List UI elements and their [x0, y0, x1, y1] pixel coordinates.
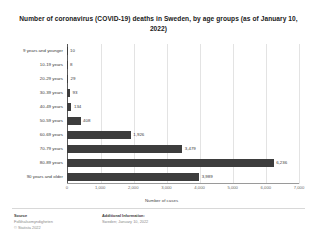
x-tick-label: 4,000	[194, 185, 204, 190]
bar-value-label: 134	[74, 105, 81, 109]
bar[interactable]	[67, 89, 70, 97]
bar[interactable]	[67, 117, 81, 125]
bar-track: 29	[67, 74, 299, 85]
bar-value-label: 408	[83, 119, 90, 123]
bar-value-label: 6,236	[276, 161, 287, 165]
category-label: 9 years and younger	[12, 49, 67, 53]
footer-divider	[12, 208, 305, 209]
category-label: 90 years and older	[12, 175, 67, 179]
bar[interactable]	[67, 173, 199, 181]
bar-row: 20-29 years29	[12, 74, 299, 85]
bar-value-label: 93	[73, 91, 78, 95]
bar[interactable]	[67, 61, 68, 69]
bar-track: 3,989	[67, 172, 299, 183]
chart-card: Number of coronavirus (COVID-19) deaths …	[0, 0, 317, 245]
chart-footer: Source Folkhalsomyndigheten © Statista 2…	[14, 213, 305, 231]
category-label: 40-49 years	[12, 105, 67, 109]
bar-value-label: 10	[70, 49, 75, 53]
category-label: 60-69 years	[12, 133, 67, 137]
bar-value-label: 3,479	[185, 147, 196, 151]
bar[interactable]	[67, 159, 274, 167]
chart-title: Number of coronavirus (COVID-19) deaths …	[14, 14, 303, 34]
bar-row: 90 years and older3,989	[12, 172, 299, 183]
bar-value-label: 8	[70, 63, 72, 67]
bar[interactable]	[67, 145, 182, 153]
x-tick-label: 3,000	[161, 185, 171, 190]
bar-track: 134	[67, 102, 299, 113]
bar-row: 50-59 years408	[12, 116, 299, 127]
bar-row: 30-39 years93	[12, 88, 299, 99]
x-tick-label: 1,000	[95, 185, 105, 190]
category-label: 80-89 years	[12, 161, 67, 165]
bar[interactable]	[67, 47, 68, 55]
bar-track: 10	[67, 46, 299, 57]
bar-row: 70-79 years3,479	[12, 144, 299, 155]
bar-row: 40-49 years134	[12, 102, 299, 113]
category-label: 10-19 years	[12, 63, 67, 67]
additional-info-block: Additional Information: Sweden; January …	[102, 213, 148, 231]
category-label: 30-39 years	[12, 91, 67, 95]
bar-row: 80-89 years6,236	[12, 158, 299, 169]
category-label: 70-79 years	[12, 147, 67, 151]
x-tick-label: 6,000	[261, 185, 271, 190]
bar-track: 8	[67, 60, 299, 71]
x-tick-label: 5,000	[227, 185, 237, 190]
bar-value-label: 1,926	[133, 133, 144, 137]
additional-info-line: Sweden; January 10, 2022	[102, 219, 148, 225]
bar-value-label: 29	[70, 77, 75, 81]
gridline	[299, 44, 300, 184]
x-tick-label: 7,000	[294, 185, 304, 190]
bar-row: 9 years and younger10	[12, 46, 299, 57]
bar[interactable]	[67, 103, 71, 111]
bar-track: 1,926	[67, 130, 299, 141]
bar-track: 93	[67, 88, 299, 99]
bar[interactable]	[67, 131, 131, 139]
plot-area: 9 years and younger1010-19 years820-29 y…	[12, 44, 305, 194]
bar[interactable]	[67, 75, 68, 83]
x-axis-label: Number of cases	[12, 198, 311, 203]
bar-row: 60-69 years1,926	[12, 130, 299, 141]
x-tick-label: 0	[66, 185, 68, 190]
source-block: Source Folkhalsomyndigheten © Statista 2…	[14, 213, 102, 231]
bar-track: 408	[67, 116, 299, 127]
bar-rows: 9 years and younger1010-19 years820-29 y…	[12, 44, 299, 184]
x-axis-ticks: 01,0002,0003,0004,0005,0006,0007,000	[67, 184, 299, 194]
bar-track: 6,236	[67, 158, 299, 169]
category-label: 50-59 years	[12, 119, 67, 123]
category-label: 20-29 years	[12, 77, 67, 81]
source-line: © Statista 2022	[14, 225, 102, 231]
x-tick-label: 2,000	[128, 185, 138, 190]
bar-track: 3,479	[67, 144, 299, 155]
bar-value-label: 3,989	[202, 175, 213, 179]
bar-row: 10-19 years8	[12, 60, 299, 71]
additional-info-heading: Additional Information:	[102, 213, 148, 219]
